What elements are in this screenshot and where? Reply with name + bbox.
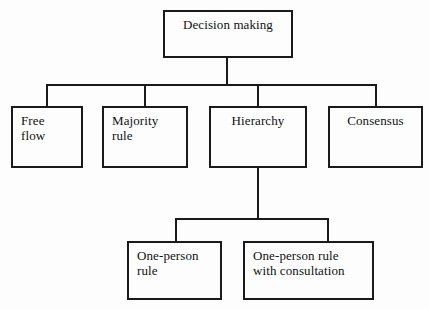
node-one-person-rule[interactable]: One-person rule — [127, 241, 222, 300]
edge-decision-making-stem — [226, 58, 228, 86]
edge-drop-consensus — [375, 84, 377, 106]
edge-drop-majority-rule — [144, 84, 146, 106]
node-majority-rule[interactable]: Majority rule — [102, 106, 188, 168]
node-majority-rule-label: Majority rule — [112, 113, 158, 144]
edge-drop-hierarchy — [257, 84, 259, 106]
node-decision-making[interactable]: Decision making — [163, 10, 293, 58]
edge-drop-one-person-rule — [175, 218, 177, 241]
node-free-flow[interactable]: Free flow — [11, 106, 83, 168]
edge-drop-free-flow — [46, 84, 48, 106]
edge-hierarchy-stem — [257, 168, 259, 220]
edge-level1-bus — [46, 84, 377, 86]
node-decision-making-label: Decision making — [183, 17, 273, 32]
node-hierarchy[interactable]: Hierarchy — [209, 106, 307, 168]
node-hierarchy-label: Hierarchy — [232, 113, 285, 128]
node-consensus[interactable]: Consensus — [328, 106, 423, 168]
decision-making-tree-diagram: Decision making Free flow Majority rule … — [0, 0, 429, 309]
edge-level2-bus — [175, 218, 329, 220]
node-one-person-rule-with-consultation[interactable]: One-person rule with consultation — [243, 241, 374, 300]
edge-drop-one-person-rule-with-consultation — [327, 218, 329, 241]
node-one-person-rule-label: One-person rule — [137, 248, 199, 279]
node-free-flow-label: Free flow — [21, 113, 45, 144]
node-one-person-rule-with-consultation-label: One-person rule with consultation — [253, 248, 345, 279]
node-consensus-label: Consensus — [347, 113, 404, 128]
